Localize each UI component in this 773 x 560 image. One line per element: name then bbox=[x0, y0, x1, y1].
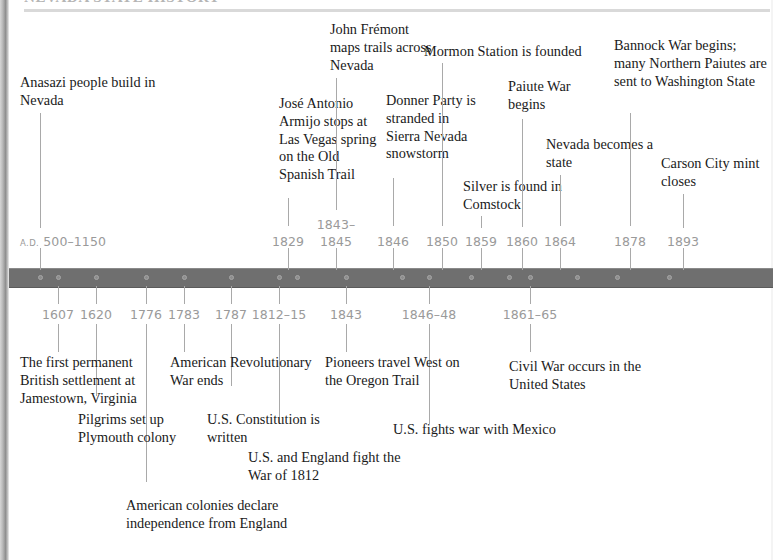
timeline-tick-dot bbox=[94, 275, 99, 280]
timeline-tick-dot bbox=[575, 275, 580, 280]
year-label-below-1843: 1843 bbox=[316, 307, 376, 322]
stem-below-1620-upper bbox=[96, 286, 97, 304]
stem-above-anasazi bbox=[40, 113, 41, 228]
timeline-tick-dot bbox=[427, 275, 432, 280]
event-below-civil-war: Civil War occurs in the United States bbox=[509, 358, 649, 394]
stem-above-bannock-war bbox=[630, 113, 631, 226]
stem-above-1893-lower bbox=[683, 248, 684, 270]
event-above-nevada-statehood: Nevada becomes a state bbox=[546, 136, 664, 172]
timeline-tick-dot bbox=[56, 275, 61, 280]
ad-era-prefix: A.D. bbox=[20, 238, 39, 248]
year-label-above-500-1150: A.D. 500–1150 bbox=[20, 234, 140, 249]
stem-above-armijo bbox=[288, 198, 289, 226]
event-below-declaration-of-independence: American colonies declare independence f… bbox=[126, 497, 322, 533]
event-above-bannock-war: Bannock War begins; many Northern Paiute… bbox=[614, 37, 770, 90]
timeline-tick-dot bbox=[507, 275, 512, 280]
stem-below-1776-upper bbox=[146, 286, 147, 304]
event-above-carson-city-mint: Carson City mint closes bbox=[661, 155, 765, 191]
event-below-us-constitution: U.S. Constitution is written bbox=[207, 411, 341, 447]
timeline-tick-dot bbox=[182, 275, 187, 280]
stem-below-1607-upper bbox=[58, 286, 59, 304]
stem-below-1861-65-lower bbox=[530, 324, 531, 352]
stem-above-1850-lower bbox=[442, 248, 443, 270]
event-below-mexican-war: U.S. fights war with Mexico bbox=[393, 421, 593, 439]
timeline-tick-dot bbox=[469, 275, 474, 280]
stem-below-1843-upper bbox=[346, 286, 347, 304]
stem-below-1812-15-upper bbox=[279, 286, 280, 304]
stem-above-500-1150-lower bbox=[40, 248, 41, 270]
timeline-tick-dot bbox=[528, 275, 533, 280]
year-label-above-1878: 1878 bbox=[600, 234, 660, 249]
stem-above-carson-city-mint bbox=[683, 194, 684, 228]
title-divider-rule bbox=[24, 9, 770, 12]
year-label-below-1812-15: 1812–15 bbox=[245, 307, 313, 322]
year-label-below-1846-48: 1846–48 bbox=[395, 307, 463, 322]
timeline-tick-dot bbox=[400, 275, 405, 280]
year-value: 500–1150 bbox=[39, 234, 106, 249]
timeline-tick-dot bbox=[144, 275, 149, 280]
timeline-bar bbox=[9, 268, 773, 288]
stem-below-1783-lower bbox=[184, 324, 185, 352]
timeline-tick-dot bbox=[344, 275, 349, 280]
stem-below-1607-lower bbox=[58, 324, 59, 352]
year-label-above-1864: 1864 bbox=[530, 234, 590, 249]
stem-below-1846-48-upper bbox=[429, 286, 430, 304]
stem-above-comstock-silver bbox=[481, 216, 482, 228]
stem-above-paiute-war bbox=[522, 119, 523, 227]
event-above-paiute-war: Paiute War begins bbox=[508, 78, 586, 114]
stem-below-1783-upper bbox=[184, 286, 185, 304]
event-below-revolutionary-war-ends: American Revolutionary War ends bbox=[170, 354, 320, 390]
event-above-armijo: José Antonio Armijo stops at Las Vegas s… bbox=[279, 95, 387, 184]
chapter-title: NEVADA STATE HISTORY bbox=[24, 0, 444, 6]
stem-above-1829-lower bbox=[288, 248, 289, 270]
timeline-page: NEVADA STATE HISTORY A.D. 500–1150 1829 … bbox=[0, 0, 773, 560]
timeline-tick-dot bbox=[38, 275, 43, 280]
timeline-tick-dot bbox=[295, 275, 300, 280]
stem-above-donner-party bbox=[393, 178, 394, 226]
stem-below-1861-65-upper bbox=[530, 286, 531, 304]
year-label-above-1893: 1893 bbox=[653, 234, 713, 249]
event-below-oregon-trail: Pioneers travel West on the Oregon Trail bbox=[325, 354, 461, 390]
stem-above-nevada-statehood bbox=[560, 175, 561, 226]
year-label-above-1843: 1843– bbox=[306, 217, 366, 232]
timeline-tick-dot bbox=[277, 275, 282, 280]
year-label-below-1861-65: 1861–65 bbox=[496, 307, 564, 322]
stem-above-1864-lower bbox=[560, 248, 561, 270]
event-below-jamestown: The first permanent British settlement a… bbox=[20, 354, 164, 407]
event-below-war-of-1812: U.S. and England fight the War of 1812 bbox=[248, 449, 408, 485]
event-below-plymouth: Pilgrims set up Plymouth colony bbox=[78, 411, 200, 447]
stem-below-1787-upper bbox=[231, 286, 232, 304]
timeline-tick-dot bbox=[615, 275, 620, 280]
stem-above-1846-lower bbox=[393, 248, 394, 270]
page-left-edge-shadow bbox=[0, 0, 9, 560]
stem-below-1843-lower bbox=[346, 324, 347, 352]
year-label-above-1845: 1845 bbox=[306, 234, 366, 249]
stem-above-fremont bbox=[336, 78, 337, 210]
event-above-comstock-silver: Silver is found in Comstock bbox=[463, 178, 567, 214]
event-above-donner-party: Donner Party is stranded in Sierra Nevad… bbox=[386, 92, 482, 163]
stem-above-1860-lower bbox=[522, 248, 523, 270]
stem-above-1859-lower bbox=[481, 248, 482, 270]
event-above-fremont: John Frémont maps trails across Nevada bbox=[330, 21, 434, 74]
timeline-tick-dot bbox=[667, 275, 672, 280]
stem-above-1843-1845-lower bbox=[336, 248, 337, 270]
timeline-tick-dot bbox=[229, 275, 234, 280]
stem-above-1878-lower bbox=[630, 248, 631, 270]
event-above-anasazi: Anasazi people build in Nevada bbox=[20, 74, 170, 110]
stem-above-mormon-station bbox=[442, 63, 443, 226]
